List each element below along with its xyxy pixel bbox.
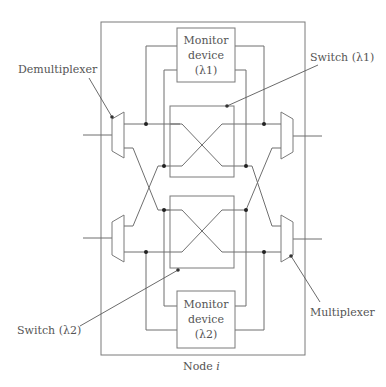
node-label-var: i — [216, 360, 220, 373]
junction-dot — [244, 164, 248, 168]
label-switch-lambda1: Switch (λ1) — [310, 51, 374, 64]
arrowhead-icon — [289, 254, 293, 258]
arrowhead-icon — [110, 115, 114, 119]
arrowhead-icon — [176, 268, 180, 272]
junction-dot — [144, 250, 148, 254]
label-multiplexer: Multiplexer — [310, 306, 376, 319]
monitor-bottom-line2: device — [188, 313, 224, 326]
wdm-node-diagram: Monitor device (λ1) Monitor device (λ2) … — [0, 0, 386, 387]
junction-dot — [162, 164, 166, 168]
monitor-bottom-line3: (λ2) — [195, 328, 218, 341]
arrowhead-icon — [225, 104, 229, 108]
demultiplexer-top — [112, 112, 124, 158]
node-label: Node i — [183, 360, 220, 373]
monitor-bottom-line1: Monitor — [184, 298, 230, 311]
label-switch-lambda2: Switch (λ2) — [17, 324, 81, 337]
label-demultiplexer: Demultiplexer — [18, 63, 98, 76]
demultiplexer-bottom — [112, 215, 124, 262]
junction-dot — [162, 208, 166, 212]
monitor-top-line3: (λ1) — [195, 64, 218, 77]
junction-dot — [144, 122, 148, 126]
multiplexer-top — [281, 112, 293, 159]
node-label-prefix: Node — [183, 360, 216, 373]
junction-dot — [262, 250, 266, 254]
monitor-top-line2: device — [188, 49, 224, 62]
junction-dot — [262, 122, 266, 126]
monitor-top-line1: Monitor — [184, 34, 230, 47]
junction-dot — [244, 208, 248, 212]
